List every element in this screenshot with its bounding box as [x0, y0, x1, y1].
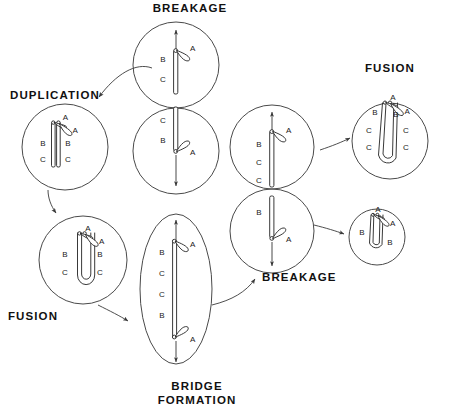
- breakage-right-lower-chromatid: B A: [256, 196, 292, 266]
- arm-label: C: [403, 143, 409, 152]
- stage-label-breakage-top: BREAKAGE: [153, 2, 228, 14]
- fusion-left-cell: A A B C B C: [39, 216, 127, 304]
- breakage-right-upper-chromatid: B C C A: [256, 112, 292, 187]
- arm-label: B: [62, 250, 68, 259]
- bfb-cycle-diagram: B C A C B A BREAKAGE A A B C: [0, 0, 449, 414]
- arm-label: C: [160, 116, 166, 125]
- marker-label: A: [390, 93, 396, 102]
- marker-label: A: [190, 148, 196, 157]
- stage-label-bridge-line1: BRIDGE: [171, 380, 222, 392]
- arm-label: C: [160, 75, 166, 84]
- arm-label: B: [372, 108, 378, 117]
- arm-label: B: [40, 139, 46, 148]
- arm-label: C: [366, 143, 372, 152]
- breakage-top-lower-chromatid: C B A: [160, 107, 196, 186]
- arm-label: B: [159, 248, 165, 257]
- arm-label: C: [62, 268, 68, 277]
- arm-label: C: [65, 155, 71, 164]
- fusion-right-lower-cell: A A B B: [349, 205, 405, 265]
- arm-label: C: [403, 126, 409, 135]
- marker-label: A: [190, 44, 196, 53]
- arm-label: B: [160, 55, 166, 64]
- bridge-chromatin: B C C B A A: [159, 220, 196, 362]
- marker-label: A: [73, 126, 79, 135]
- arm-label: B: [159, 311, 165, 320]
- breakage-top-upper-chromatid: B C A: [160, 30, 196, 94]
- flow-arrow-breakage-to-fusion-upper: [320, 138, 350, 150]
- arm-label: B: [97, 250, 103, 259]
- marker-label: A: [190, 335, 196, 344]
- stage-label-fusion-left: FUSION: [8, 310, 58, 322]
- arm-label: C: [159, 290, 165, 299]
- duplication-cell: A A B C B C: [22, 104, 108, 190]
- marker-label: A: [405, 107, 411, 116]
- marker-label: A: [286, 126, 292, 135]
- arm-label: B: [359, 228, 365, 237]
- marker-label: A: [99, 237, 105, 246]
- stage-label-bridge-line2: FORMATION: [158, 394, 237, 406]
- marker-label: A: [63, 113, 69, 122]
- arm-label: B: [393, 110, 399, 119]
- breakage-right-cell: B C C A B A: [230, 105, 314, 273]
- fusion-right-upper-chromatid: A A B C C B C C: [366, 93, 410, 163]
- flow-arrow-duplication-to-fusion: [48, 190, 56, 213]
- arm-label: C: [159, 269, 165, 278]
- arm-label: B: [256, 208, 262, 217]
- arm-label: B: [387, 238, 393, 247]
- arm-label: C: [256, 176, 262, 185]
- fusion-left-chromatid: A A B C B C: [62, 224, 105, 285]
- duplication-chromatids: A A B C B C: [40, 113, 78, 167]
- flow-arrow-breakage-to-duplication: [99, 66, 152, 97]
- stage-label-duplication: DUPLICATION: [10, 89, 100, 101]
- arm-label: C: [256, 158, 262, 167]
- fusion-right-upper-cell: A A B C C B C C: [352, 93, 428, 179]
- marker-label: A: [85, 224, 91, 233]
- breakage-top-cell: B C A C B A: [133, 22, 219, 194]
- arm-label: C: [40, 155, 46, 164]
- flow-arrow-fusion-to-bridge: [98, 305, 128, 321]
- diagram-canvas: B C A C B A BREAKAGE A A B C: [0, 0, 449, 414]
- stage-label-fusion-right: FUSION: [365, 62, 415, 74]
- stage-label-breakage-right: BREAKAGE: [262, 271, 337, 283]
- marker-label: A: [190, 240, 196, 249]
- arm-label: C: [366, 126, 372, 135]
- flow-arrow-breakage-to-fusion-lower: [314, 225, 344, 234]
- flow-arrow-bridge-to-breakage: [212, 279, 255, 305]
- arm-label: C: [97, 268, 103, 277]
- marker-label: A: [375, 205, 381, 214]
- marker-label: A: [286, 235, 292, 244]
- arm-label: B: [160, 136, 166, 145]
- bridge-formation-cell: B C C B A A: [140, 214, 212, 364]
- arm-label: B: [256, 140, 262, 149]
- marker-label: A: [390, 219, 396, 228]
- arm-label: B: [65, 139, 71, 148]
